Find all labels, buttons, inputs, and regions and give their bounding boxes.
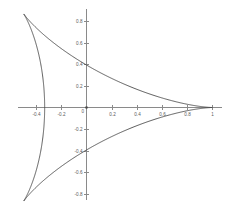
x-tick-label-0.4: 0.4 bbox=[134, 112, 141, 117]
y-tick-label-0.2: 0.2 bbox=[76, 84, 83, 89]
origin-tick-label: 0 bbox=[81, 109, 84, 114]
plot-container: -0.4-0.20.20.40.60.81 0.80.60.40.2-0.2-0… bbox=[0, 0, 236, 208]
deltoid-chart: -0.4-0.20.20.40.60.81 0.80.60.40.2-0.2-0… bbox=[0, 0, 236, 208]
y-tick-label--0.6: -0.6 bbox=[75, 170, 83, 175]
origin-marker bbox=[85, 106, 88, 109]
x-tick-label-0.8: 0.8 bbox=[184, 112, 191, 117]
axes-group bbox=[18, 9, 222, 200]
y-tick-label-0.6: 0.6 bbox=[76, 41, 83, 46]
x-tick-label-0.2: 0.2 bbox=[109, 112, 116, 117]
x-tick-label--0.2: -0.2 bbox=[58, 112, 66, 117]
y-tick-label-0.8: 0.8 bbox=[76, 19, 83, 24]
y-tick-label--0.8: -0.8 bbox=[75, 192, 83, 197]
x-tick-label--0.4: -0.4 bbox=[33, 112, 41, 117]
x-tick-label-1: 1 bbox=[211, 112, 214, 117]
x-tick-labels: -0.4-0.20.20.40.60.81 bbox=[33, 112, 215, 117]
y-tick-label--0.4: -0.4 bbox=[75, 149, 83, 154]
y-tick-label--0.2: -0.2 bbox=[75, 127, 83, 132]
x-tick-label-0.6: 0.6 bbox=[159, 112, 166, 117]
y-tick-label-0.4: 0.4 bbox=[76, 62, 83, 67]
